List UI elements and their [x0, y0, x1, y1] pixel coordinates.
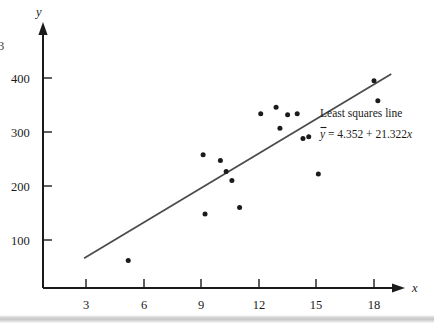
equation-variable: x: [406, 128, 413, 140]
footer-separator-band: [0, 315, 434, 323]
scatter-point: [316, 172, 321, 177]
scatter-point: [224, 169, 229, 174]
annotation-equation: y = 4.352 + 21.322x: [319, 128, 413, 142]
scatter-point: [218, 158, 223, 163]
scatter-point: [229, 178, 234, 183]
cropped-edge-glyph: 3: [0, 39, 4, 53]
scatter-point: [375, 98, 380, 103]
y-axis-label: y: [34, 5, 42, 19]
figure-background: [0, 0, 434, 326]
x-tick-label-12: 12: [253, 298, 266, 312]
svg-text:y = 4.352 + 21.322x: y = 4.352 + 21.322x: [319, 128, 413, 141]
x-tick-label-15: 15: [310, 298, 323, 312]
scatter-point: [295, 111, 300, 116]
scatter-point: [237, 205, 242, 210]
y-tick-label-400: 400: [11, 72, 30, 86]
x-tick-label-3: 3: [83, 298, 89, 312]
scatter-point: [277, 126, 282, 131]
equation-body: = 4.352 + 21.322: [325, 128, 407, 140]
x-tick-label-18: 18: [368, 298, 381, 312]
scatter-point: [372, 78, 377, 83]
x-tick-label-6: 6: [141, 298, 147, 312]
x-axis-label: x: [411, 281, 418, 295]
scatter-point: [203, 212, 208, 217]
scatter-point: [258, 111, 263, 116]
annotation-title: Least squares line: [320, 107, 402, 120]
y-tick-label-100: 100: [11, 234, 30, 248]
x-tick-label-9: 9: [198, 298, 204, 312]
scatter-point: [285, 112, 290, 117]
scatter-plot-figure: 3 y x 400 300 200 100 3 6 9 12: [0, 0, 434, 326]
y-tick-label-200: 200: [11, 180, 30, 194]
scatter-point: [274, 105, 279, 110]
scatter-point: [201, 152, 206, 157]
scatter-point: [300, 136, 305, 141]
y-tick-label-300: 300: [11, 126, 30, 140]
scatter-point: [126, 258, 131, 263]
scatter-point: [306, 134, 311, 139]
